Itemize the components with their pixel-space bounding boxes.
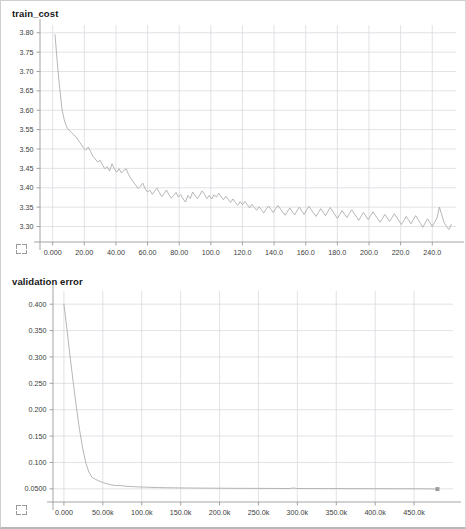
- x-tick-label: 40.00: [107, 248, 125, 257]
- expand-icon-corner-tl: [16, 505, 21, 510]
- x-tick-label: 50.00k: [92, 508, 114, 517]
- expand-icon[interactable]: [16, 505, 27, 515]
- x-tick-label: 220.0: [392, 248, 410, 257]
- y-tick-label: 3.55: [20, 125, 34, 134]
- expand-icon-corner-tr: [22, 244, 27, 249]
- y-tick-label: 3.70: [20, 67, 34, 76]
- series-end-marker: [435, 487, 439, 491]
- x-tick-label: 350.0k: [325, 508, 347, 517]
- charts-page: train_cost 3.303.353.403.453.503.553.603…: [0, 0, 466, 529]
- expand-icon-corner-tr: [22, 505, 27, 510]
- y-tick-label: 3.30: [20, 222, 34, 231]
- y-tick-label: 3.75: [20, 48, 34, 57]
- chart-panel-validation-error: validation error 0.05000.1000.1500.2000.…: [1, 269, 466, 528]
- chart-panel-train-cost: train_cost 3.303.353.403.453.503.553.603…: [1, 1, 466, 269]
- x-tick-label: 250.0k: [248, 508, 270, 517]
- y-tick-label: 0.200: [29, 405, 47, 414]
- y-tick-label: 3.50: [20, 145, 34, 154]
- x-tick-label: 150.0k: [170, 508, 192, 517]
- data-series-line: [55, 35, 451, 230]
- y-tick-label: 3.40: [20, 183, 34, 192]
- expand-icon-corner-tl: [16, 244, 21, 249]
- x-tick-label: 100.0: [202, 248, 220, 257]
- y-tick-label: 0.300: [29, 353, 47, 362]
- x-tick-label: 180.0: [328, 248, 346, 257]
- y-tick-label: 0.0500: [25, 484, 47, 493]
- x-tick-label: 80.00: [170, 248, 188, 257]
- expand-icon-corner-bl: [16, 511, 21, 516]
- x-tick-label: 0.000: [44, 248, 62, 257]
- y-tick-label: 0.400: [29, 300, 47, 309]
- x-tick-label: 160.0: [297, 248, 315, 257]
- expand-icon-corner-br: [22, 511, 27, 516]
- x-tick-label: 240.0: [423, 248, 441, 257]
- chart-train-cost: 3.303.353.403.453.503.553.603.653.703.75…: [1, 1, 466, 269]
- x-tick-label: 100.0k: [131, 508, 153, 517]
- y-tick-label: 0.100: [29, 458, 47, 467]
- chart-train-cost-svg: 3.303.353.403.453.503.553.603.653.703.75…: [1, 1, 466, 269]
- x-tick-label: 20.00: [75, 248, 93, 257]
- x-tick-label: 120.0: [233, 248, 251, 257]
- expand-icon-corner-br: [22, 250, 27, 255]
- x-tick-label: 60.00: [139, 248, 157, 257]
- x-tick-label: 200.0: [360, 248, 378, 257]
- y-tick-label: 3.80: [20, 28, 34, 37]
- data-series-line: [64, 304, 438, 489]
- chart-validation-error: 0.05000.1000.1500.2000.2500.3000.3500.40…: [1, 269, 466, 528]
- y-tick-label: 0.250: [29, 379, 47, 388]
- expand-icon-corner-bl: [16, 250, 21, 255]
- y-tick-label: 3.45: [20, 164, 34, 173]
- x-tick-label: 140.0: [265, 248, 283, 257]
- x-tick-label: 400.0k: [364, 508, 386, 517]
- x-tick-label: 450.0k: [403, 508, 425, 517]
- y-tick-label: 0.350: [29, 326, 47, 335]
- x-tick-label: 0.000: [55, 508, 73, 517]
- y-tick-label: 0.150: [29, 432, 47, 441]
- y-tick-label: 3.65: [20, 86, 34, 95]
- chart-validation-error-svg: 0.05000.1000.1500.2000.2500.3000.3500.40…: [1, 269, 466, 528]
- y-tick-label: 3.35: [20, 203, 34, 212]
- x-tick-label: 300.0k: [287, 508, 309, 517]
- y-tick-label: 3.60: [20, 106, 34, 115]
- x-tick-label: 200.0k: [209, 508, 231, 517]
- expand-icon[interactable]: [16, 244, 27, 254]
